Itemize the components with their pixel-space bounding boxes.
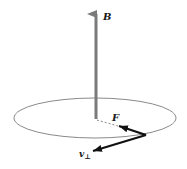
velocity-perp-label: v⊥ <box>79 149 91 161</box>
perp-subscript: ⊥ <box>84 152 91 161</box>
diagram-canvas: B F v⊥ <box>0 0 187 169</box>
magnetic-field-label: B <box>102 11 111 22</box>
force-vector-arrow <box>119 126 146 135</box>
force-label: F <box>111 112 120 123</box>
